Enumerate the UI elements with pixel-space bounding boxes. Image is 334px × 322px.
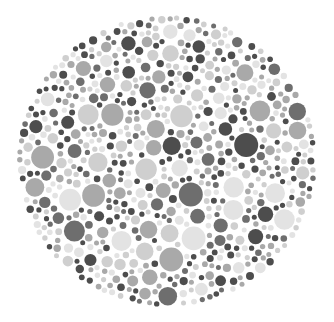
plate-dot	[152, 33, 160, 41]
plate-dot	[18, 166, 26, 174]
plate-dot	[213, 182, 219, 188]
plate-dot	[243, 116, 248, 121]
plate-dot	[111, 40, 116, 45]
plate-dot	[121, 209, 126, 214]
plate-dot	[79, 43, 86, 50]
plate-dot	[290, 188, 295, 193]
plate-dot	[80, 87, 86, 93]
plate-dot	[155, 113, 160, 118]
plate-dot	[190, 209, 205, 224]
plate-dot	[219, 287, 224, 292]
plate-dot	[224, 177, 244, 197]
plate-dot	[205, 71, 214, 80]
plate-dot	[199, 122, 209, 132]
plate-dot	[211, 24, 216, 29]
plate-dot	[95, 88, 100, 93]
plate-dot	[234, 133, 258, 157]
plate-dot	[182, 268, 188, 274]
plate-dot	[159, 39, 164, 44]
plate-dot	[90, 126, 95, 131]
plate-dot	[163, 25, 177, 39]
plate-dot	[225, 142, 230, 147]
plate-dot	[95, 273, 100, 278]
plate-dot	[179, 183, 203, 207]
plate-dot	[242, 101, 247, 106]
plate-dot	[87, 278, 93, 284]
plate-dot	[307, 123, 312, 128]
plate-dot	[76, 77, 85, 86]
plate-dot	[50, 166, 57, 173]
plate-dot	[51, 205, 57, 211]
plate-dot	[114, 68, 119, 73]
plate-dot	[212, 250, 218, 256]
plate-dot	[67, 61, 74, 68]
plate-dot	[119, 170, 124, 175]
plate-dot	[57, 142, 64, 149]
plate-dot	[153, 26, 159, 32]
plate-dot	[114, 187, 126, 199]
plate-dot	[310, 176, 315, 181]
plate-dot	[203, 99, 209, 105]
plate-dot	[256, 176, 261, 181]
plate-dot	[273, 100, 282, 109]
plate-dot	[232, 94, 241, 103]
plate-dot	[161, 85, 169, 93]
plate-dot	[155, 213, 160, 218]
plate-dot	[152, 70, 165, 83]
plate-dot	[170, 89, 175, 94]
plate-dot	[73, 212, 79, 218]
plate-dot	[131, 31, 137, 37]
plate-dot	[220, 198, 225, 203]
plate-dot	[130, 90, 135, 95]
plate-dot	[102, 256, 113, 267]
plate-dot	[80, 97, 86, 103]
plate-dot	[136, 20, 143, 27]
plate-dot	[278, 91, 283, 96]
plate-dot	[281, 73, 287, 79]
plate-dot	[260, 144, 265, 149]
plate-dot	[228, 52, 236, 60]
plate-dot	[189, 288, 194, 293]
plate-dot	[106, 217, 113, 224]
plate-dot	[138, 268, 143, 273]
plate-dot	[206, 223, 212, 229]
plate-dot	[211, 29, 221, 39]
plate-dot	[85, 221, 93, 229]
plate-dot	[282, 243, 287, 248]
plate-dot	[44, 86, 49, 91]
plate-dot	[101, 277, 106, 282]
plate-dot	[153, 179, 159, 185]
plate-dot	[33, 199, 38, 204]
plate-dot	[209, 281, 215, 287]
plate-dot	[56, 98, 61, 103]
plate-dot	[128, 208, 135, 215]
plate-dot	[192, 106, 197, 111]
plate-dot	[129, 269, 134, 274]
plate-dot	[89, 36, 97, 44]
plate-dot	[142, 102, 147, 107]
plate-dot	[58, 151, 64, 157]
plate-dot	[221, 57, 226, 62]
plate-dot	[214, 190, 219, 195]
plate-dot	[245, 95, 250, 100]
plate-dot	[224, 244, 231, 251]
plate-dot	[232, 37, 242, 47]
plate-dot	[68, 144, 82, 158]
plate-dot	[29, 120, 42, 133]
plate-dot	[97, 249, 102, 254]
plate-dot	[123, 252, 129, 258]
plate-dot	[101, 42, 111, 52]
plate-dot	[162, 214, 167, 219]
plate-dot	[232, 60, 239, 67]
plate-dot	[55, 228, 62, 235]
plate-dot	[120, 160, 127, 167]
plate-dot	[54, 253, 59, 258]
plate-dot	[23, 143, 32, 152]
plate-dot	[174, 76, 180, 82]
plate-dot	[73, 172, 78, 177]
plate-dot	[64, 136, 70, 142]
plate-dot	[187, 101, 192, 106]
plate-dot	[76, 61, 91, 76]
plate-dot	[146, 30, 151, 35]
plate-dot	[205, 61, 214, 70]
